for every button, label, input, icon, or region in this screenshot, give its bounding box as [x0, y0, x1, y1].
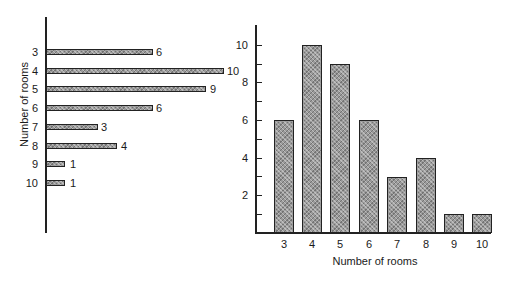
left-bar [46, 161, 65, 167]
left-value-label: 6 [156, 47, 162, 58]
y-tick-label: 2 [242, 190, 248, 201]
column-bar [274, 120, 294, 233]
y-tick [255, 120, 262, 121]
left-cat-label: 9 [32, 159, 38, 170]
x-tick-label: 4 [302, 239, 322, 250]
column-bar [444, 214, 464, 233]
left-bar [46, 124, 98, 130]
column-bar [330, 64, 350, 233]
left-cat-label: 7 [32, 122, 38, 133]
x-axis-label: Number of rooms [320, 256, 430, 267]
x-tick-label: 5 [330, 239, 350, 250]
left-value-label: 3 [101, 122, 107, 133]
y-tick [255, 176, 262, 177]
left-cat-label: 4 [32, 66, 38, 77]
left-cat-label: 5 [32, 84, 38, 95]
left-bar [46, 105, 153, 111]
left-bar [46, 68, 224, 74]
left-value-label: 4 [121, 141, 127, 152]
left-bar [46, 143, 117, 149]
left-value-label: 1 [70, 159, 76, 170]
y-tick [255, 45, 262, 46]
x-tick-label: 10 [472, 239, 492, 250]
y-tick [255, 195, 262, 196]
left-value-label: 10 [227, 66, 239, 77]
y-tick [255, 101, 262, 102]
x-tick-label: 3 [274, 239, 294, 250]
x-tick-label: 8 [416, 239, 436, 250]
y-tick [255, 139, 262, 140]
y-tick [255, 214, 262, 215]
right-chart-y-axis [255, 25, 257, 233]
column-bar [416, 158, 436, 233]
left-cat-label: 8 [32, 141, 38, 152]
y-tick-label: 4 [242, 153, 248, 164]
left-cat-label: 6 [32, 103, 38, 114]
y-tick-label: 6 [242, 115, 248, 126]
y-tick [255, 82, 262, 83]
left-value-label: 6 [156, 103, 162, 114]
left-cat-label: 3 [32, 47, 38, 58]
x-tick-label: 9 [444, 239, 464, 250]
y-tick [255, 64, 262, 65]
column-bar [359, 120, 379, 233]
y-tick-label: 10 [236, 40, 248, 51]
y-tick-label: 8 [242, 77, 248, 88]
left-bar [46, 86, 206, 92]
left-value-label: 9 [210, 84, 216, 95]
y-tick [255, 158, 262, 159]
left-value-label: 1 [70, 178, 76, 189]
column-bar [302, 45, 322, 233]
x-tick-label: 7 [387, 239, 407, 250]
column-bar [387, 177, 407, 233]
x-tick-label: 6 [359, 239, 379, 250]
left-cat-label: 10 [26, 178, 38, 189]
column-bar [472, 214, 492, 233]
left-chart-y-axis-label: Number of rooms [19, 57, 30, 153]
left-bar [46, 180, 65, 186]
left-bar [46, 49, 153, 55]
